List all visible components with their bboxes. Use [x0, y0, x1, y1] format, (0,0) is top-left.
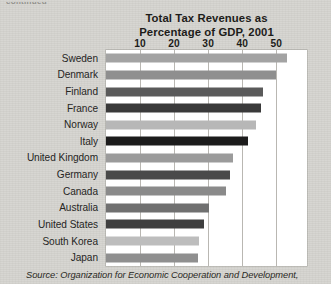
bar-japan	[106, 253, 198, 262]
bar-germany	[106, 170, 230, 179]
category-label-south-korea: South Korea	[42, 236, 98, 247]
x-tick-label-20: 20	[168, 38, 180, 49]
category-label-sweden: Sweden	[62, 53, 98, 64]
bar-row	[106, 116, 307, 133]
bar-row	[106, 233, 307, 250]
bar-united-kingdom	[106, 153, 233, 162]
category-label-row: Sweden	[0, 50, 102, 67]
plot-area	[106, 50, 307, 266]
category-label-row: Germany	[0, 166, 102, 183]
category-label-australia: Australia	[59, 202, 98, 213]
category-label-row: Norway	[0, 116, 102, 133]
bar-finland	[106, 87, 263, 96]
x-tick-label-10: 10	[134, 38, 146, 49]
bar-rows	[106, 50, 307, 266]
bar-norway	[106, 120, 256, 129]
category-label-row: Canada	[0, 183, 102, 200]
bar-australia	[106, 203, 209, 212]
category-label-italy: Italy	[80, 136, 98, 147]
category-label-japan: Japan	[71, 252, 98, 263]
category-label-row: United States	[0, 216, 102, 233]
category-label-row: Denmark	[0, 67, 102, 84]
category-label-row: Finland	[0, 83, 102, 100]
category-label-united-states: United States	[38, 219, 98, 230]
bar-row	[106, 216, 307, 233]
bar-united-states	[106, 220, 204, 229]
category-label-united-kingdom: United Kingdom	[27, 152, 98, 163]
bar-row	[106, 83, 307, 100]
category-label-canada: Canada	[63, 186, 98, 197]
bar-row	[106, 166, 307, 183]
category-label-row: South Korea	[0, 233, 102, 250]
bar-row	[106, 199, 307, 216]
bar-denmark	[106, 70, 276, 79]
category-label-denmark: Denmark	[57, 69, 98, 80]
x-tick-label-40: 40	[236, 38, 248, 49]
category-label-row: United Kingdom	[0, 150, 102, 167]
bar-canada	[106, 187, 226, 196]
x-tick-label-50: 50	[270, 38, 282, 49]
x-tick-label-30: 30	[202, 38, 214, 49]
chart-title-line-1: Total Tax Revenues as	[106, 12, 307, 26]
bar-row	[106, 67, 307, 84]
category-label-france: France	[67, 103, 98, 114]
bar-row	[106, 150, 307, 167]
bar-row	[106, 133, 307, 150]
bar-row	[106, 249, 307, 266]
bar-row	[106, 50, 307, 67]
chart-title: Total Tax Revenues as Percentage of GDP,…	[106, 12, 307, 39]
category-label-finland: Finland	[65, 86, 98, 97]
category-label-norway: Norway	[64, 119, 98, 130]
bar-south-korea	[106, 237, 199, 246]
bar-italy	[106, 137, 248, 146]
category-axis-labels: SwedenDenmarkFinlandFranceNorwayItalyUni…	[0, 50, 102, 266]
category-label-row: Australia	[0, 199, 102, 216]
bar-row	[106, 100, 307, 117]
bar-sweden	[106, 54, 287, 63]
category-label-row: Japan	[0, 249, 102, 266]
bar-row	[106, 183, 307, 200]
bar-france	[106, 104, 261, 113]
source-note: Source: Organization for Economic Cooper…	[26, 270, 298, 280]
category-label-germany: Germany	[57, 169, 98, 180]
category-label-row: Italy	[0, 133, 102, 150]
category-label-row: France	[0, 100, 102, 117]
